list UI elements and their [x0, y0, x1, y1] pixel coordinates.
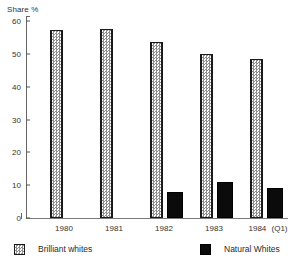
y-axis-tick-label: 20: [12, 148, 21, 157]
x-axis-label-1983: 1983: [205, 224, 223, 233]
x-axis-label-text: 1981: [105, 224, 123, 233]
bar-natural-1983[interactable]: [217, 182, 233, 218]
x-axis-label-text: 1983: [205, 224, 223, 233]
bar-group-1980: 1980: [40, 21, 90, 218]
bar-group-1981: 1981: [90, 21, 140, 218]
tick-mark: [26, 53, 30, 54]
bar-group-1982: 1982: [140, 21, 190, 218]
tick-mark: [26, 119, 30, 120]
y-axis-tick-50: 50: [12, 49, 26, 58]
bar-group-1983: 1983: [190, 21, 240, 218]
y-axis-tick-label: 0: [17, 214, 21, 223]
y-axis-line: [26, 16, 27, 219]
bar-brilliant-1984[interactable]: [250, 59, 263, 218]
legend-label: Brilliant whites: [38, 244, 92, 254]
y-axis-tick-20: 20: [12, 148, 26, 157]
y-axis-tick-0: 0: [17, 214, 26, 223]
x-axis-label-1981: 1981: [105, 224, 123, 233]
legend: Brilliant whites Natural Whites: [14, 241, 289, 259]
bar-chart-figure: Share % 60 50 40 30 20 10: [0, 0, 302, 264]
legend-item-brilliant-whites[interactable]: Brilliant whites: [14, 241, 92, 257]
tick-mark: [26, 152, 30, 153]
legend-item-natural-whites[interactable]: Natural Whites: [200, 241, 280, 257]
x-axis-label-1984: 1984 (Q1): [248, 224, 287, 233]
x-axis-line: [26, 218, 288, 219]
plot-area: 60 50 40 30 20 10 0: [26, 21, 288, 218]
y-axis-tick-label: 10: [12, 181, 21, 190]
y-axis-tick-label: 40: [12, 82, 21, 91]
legend-swatch-hatched-icon: [14, 244, 25, 255]
y-axis-tick-30: 30: [12, 115, 26, 124]
legend-swatch-solid-icon: [200, 244, 211, 255]
x-axis-label-text: 1984: [248, 224, 266, 233]
bar-natural-1982[interactable]: [167, 192, 183, 218]
x-axis-label-qualifier: (Q1): [272, 224, 288, 233]
bar-brilliant-1981[interactable]: [100, 29, 113, 218]
y-axis-tick-label: 50: [12, 49, 21, 58]
bar-brilliant-1980[interactable]: [50, 30, 63, 218]
bar-group-1984: 1984 (Q1): [240, 21, 290, 218]
y-axis-tick-40: 40: [12, 82, 26, 91]
bar-brilliant-1982[interactable]: [150, 42, 163, 218]
y-axis-tick-label: 30: [12, 115, 21, 124]
tick-mark: [26, 86, 30, 87]
bar-brilliant-1983[interactable]: [200, 54, 213, 218]
legend-label: Natural Whites: [224, 244, 280, 254]
bar-natural-1984[interactable]: [267, 188, 283, 218]
y-axis-tick-10: 10: [12, 181, 26, 190]
tick-mark: [26, 218, 30, 219]
y-axis-tick-60: 60: [12, 17, 26, 26]
tick-mark: [26, 185, 30, 186]
tick-mark: [26, 21, 30, 22]
x-axis-label-1980: 1980: [55, 224, 73, 233]
x-axis-label-text: 1980: [55, 224, 73, 233]
x-axis-label-1982: 1982: [155, 224, 173, 233]
y-axis-tick-label: 60: [12, 17, 21, 26]
y-axis-top-cap: [26, 16, 30, 17]
x-axis-label-text: 1982: [155, 224, 173, 233]
y-axis-title: Share %: [7, 5, 38, 14]
